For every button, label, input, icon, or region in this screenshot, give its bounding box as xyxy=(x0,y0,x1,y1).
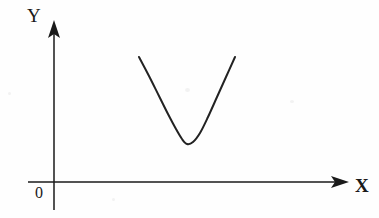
figure-canvas: Y X 0 xyxy=(0,0,379,218)
origin-label: 0 xyxy=(35,185,43,201)
y-axis-label: Y xyxy=(27,6,41,25)
parabola-curve xyxy=(139,57,235,144)
coordinate-plot xyxy=(0,0,379,218)
x-axis-label: X xyxy=(355,176,369,195)
